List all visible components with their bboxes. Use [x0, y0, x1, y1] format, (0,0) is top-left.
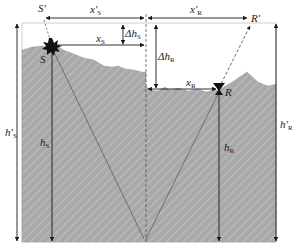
label-x-r: xR [185, 76, 196, 90]
label-s: S [40, 53, 46, 65]
label-delta-h-r: ΔhR [157, 50, 175, 64]
label-x-s-prime: x′S [89, 3, 101, 17]
label-x-r-prime: x′R [189, 3, 202, 17]
label-delta-h-s: ΔhS [124, 27, 141, 41]
label-r-prime: R′ [250, 12, 261, 24]
label-h-s-prime: h′S [5, 126, 17, 140]
seismic-geometry-diagram: S′ S R R′ x′S x′R xS xR ΔhS ΔhR h′S hS h… [0, 0, 295, 248]
label-s-prime: S′ [38, 2, 47, 14]
label-h-r-prime: h′R [280, 118, 293, 132]
terrain-body [22, 46, 276, 242]
label-x-s: xS [95, 32, 105, 46]
label-r: R [224, 86, 232, 98]
